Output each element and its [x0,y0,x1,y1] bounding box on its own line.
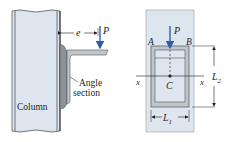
angle-label-line2: section [73,88,100,98]
load-label-left: P [102,25,109,36]
angle-leader: Angle section [70,77,102,98]
height-subscript: 2 [218,77,222,85]
centroid-label: C [166,80,173,91]
angle-label-line1: Angle [79,78,102,88]
angle-section [60,44,108,109]
corner-a-label: A [147,37,154,47]
load-p-left: P [100,25,109,48]
height-dimension-l2: L2 [192,46,222,107]
eccentricity-dimension: e [61,27,98,38]
column-label: Column [17,102,48,112]
svg-text:L2: L2 [211,71,222,85]
corner-b-label: B [186,37,192,47]
width-subscript: 1 [169,118,173,126]
centroid-point [168,74,171,77]
column-elevation [12,10,60,132]
load-label-right: P [173,25,180,36]
axis-label-right: x [199,77,204,87]
axis-label-left: x [135,77,140,87]
eccentricity-label: e [76,27,81,38]
column-bracket-diagram: e P Angle section Column x x C P A B L1 [0,0,234,142]
